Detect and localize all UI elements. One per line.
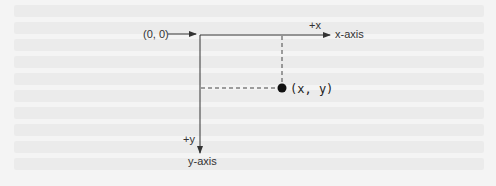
x-axis-label: x-axis [335, 28, 364, 40]
plus-y-label: +y [183, 133, 195, 145]
point-marker [278, 84, 287, 93]
point-label: (x, y) [290, 82, 333, 96]
plus-x-label: +x [309, 19, 321, 31]
y-axis-label: y-axis [188, 155, 217, 167]
origin-label: (0, 0) [143, 28, 169, 40]
coordinate-diagram: (0, 0) +x x-axis +y y-axis (x, y) [0, 0, 496, 186]
